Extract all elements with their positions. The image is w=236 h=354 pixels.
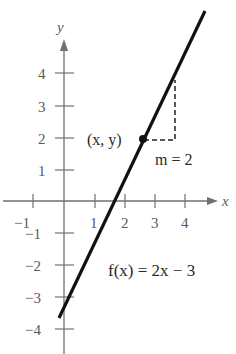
- x-axis-label: x: [221, 193, 229, 209]
- x-tick-label: 1: [90, 215, 98, 231]
- y-tick-label: 3: [38, 99, 46, 115]
- function-label: f(x) = 2x − 3: [108, 261, 195, 280]
- y-tick-label: 2: [38, 131, 46, 147]
- point-label: (x, y): [87, 131, 122, 149]
- x-tick-label: 4: [181, 215, 189, 231]
- x-tick-label: 3: [151, 215, 159, 231]
- x-axis-arrow-icon: [207, 197, 218, 205]
- y-axis-arrow-icon: [60, 39, 68, 51]
- x-tick-label: 2: [121, 215, 129, 231]
- y-tick-label: 4: [38, 66, 46, 82]
- y-tick-label: 1: [38, 163, 46, 179]
- y-axis-label: y: [55, 19, 64, 35]
- y-tick-label: −2: [25, 258, 41, 274]
- y-tick-label: −3: [25, 290, 41, 306]
- y-tick-label: −1: [25, 226, 41, 242]
- slope-label: m = 2: [155, 151, 192, 168]
- y-tick-label: −4: [25, 322, 41, 338]
- graph: y x −1 1 2 3 4 4 3 2 1 −1 −2 −3 −4 (x, y…: [0, 0, 236, 354]
- point-marker: [139, 135, 147, 143]
